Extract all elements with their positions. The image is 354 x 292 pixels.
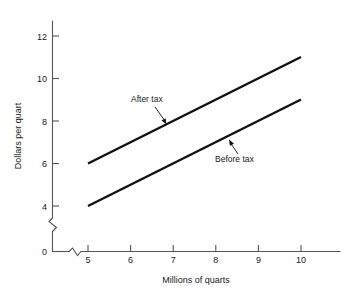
after-tax-label: After tax bbox=[131, 94, 163, 104]
after-tax-arrow-icon bbox=[162, 118, 167, 124]
x-tick-label-5: 5 bbox=[85, 255, 90, 265]
y-axis-break-icon bbox=[49, 218, 57, 232]
annotation-before-tax: Before tax bbox=[215, 140, 254, 165]
after-tax-line bbox=[88, 57, 301, 164]
y-tick-label-8: 8 bbox=[42, 117, 47, 127]
x-tick-label-9: 9 bbox=[256, 255, 261, 265]
before-tax-arrow-icon bbox=[229, 140, 234, 146]
x-tick-label-8: 8 bbox=[213, 255, 218, 265]
x-tick-label-7: 7 bbox=[171, 255, 176, 265]
before-tax-label: Before tax bbox=[215, 154, 254, 164]
series-after-tax bbox=[88, 57, 301, 164]
annotation-after-tax: After tax bbox=[131, 94, 167, 125]
y-axis: 12 10 8 6 4 0 Dollars per quart bbox=[13, 21, 59, 257]
y-tick-label-4: 4 bbox=[42, 202, 47, 212]
x-axis: 5 6 7 8 9 10 Millions of quarts bbox=[53, 245, 341, 285]
y-tick-label-6: 6 bbox=[42, 159, 47, 169]
chart-figure: 12 10 8 6 4 0 Dollars per quart 5 bbox=[0, 0, 354, 292]
before-tax-line bbox=[88, 100, 301, 207]
x-axis-title: Millions of quarts bbox=[162, 275, 230, 285]
line-chart: 12 10 8 6 4 0 Dollars per quart 5 bbox=[0, 0, 354, 292]
y-tick-label-12: 12 bbox=[37, 32, 47, 42]
x-tick-label-6: 6 bbox=[128, 255, 133, 265]
y-axis-title: Dollars per quart bbox=[13, 102, 23, 169]
x-tick-label-10: 10 bbox=[296, 255, 306, 265]
after-tax-leader-line bbox=[155, 107, 165, 121]
series-before-tax bbox=[88, 100, 301, 207]
y-tick-label-10: 10 bbox=[37, 74, 47, 84]
x-axis-break-icon bbox=[69, 248, 81, 256]
y-tick-label-0: 0 bbox=[42, 247, 47, 257]
